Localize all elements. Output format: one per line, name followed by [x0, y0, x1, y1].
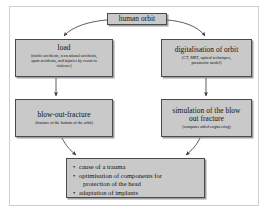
- node-load: load (traffic accidents, recreational ac…: [15, 39, 113, 77]
- list-item: • adaptation of implants: [73, 189, 199, 198]
- node-blowout-subtitle: (fracture of the bottom of the orbit): [32, 120, 96, 125]
- bullet-icon: •: [73, 163, 75, 172]
- node-human-orbit: human orbit: [107, 13, 167, 25]
- edge-root-to-digitalisation: [167, 20, 205, 36]
- node-load-subtitle: (traffic accidents, recreational acciden…: [28, 53, 100, 68]
- node-digitalisation-subtitle-line2: parametric model): [191, 60, 221, 65]
- results-item-0-line1: cause of a trauma: [79, 163, 125, 170]
- list-item: • optimisation of components for protect…: [73, 172, 199, 189]
- node-simulation-title-line2: out fracture: [189, 114, 224, 123]
- node-blowout-title: blow-out-fracture: [38, 111, 91, 119]
- results-item-1-line2: protection of the head: [79, 180, 199, 189]
- node-simulation-title: simulation of the blow out fracture: [173, 107, 241, 124]
- edge-simulation-to-results: [186, 138, 200, 155]
- edge-root-to-load: [64, 20, 107, 36]
- results-item-1-line1: optimisation of components for: [79, 172, 162, 179]
- node-digitalisation-subtitle: (CT, MRT, optical techniques, parametric…: [179, 55, 234, 65]
- node-load-title: load: [58, 44, 71, 52]
- node-blow-out-fracture: blow-out-fracture (fracture of the botto…: [15, 99, 113, 137]
- node-human-orbit-title: human orbit: [119, 15, 155, 23]
- node-simulation-subtitle: (computer aided engineering): [179, 124, 233, 129]
- edge-blowout-to-results: [62, 138, 76, 155]
- node-digitalisation-title: digitalisation of orbit: [175, 46, 239, 54]
- results-item-2-line1: adaptation of implants: [79, 189, 138, 196]
- node-load-subtitle-line3: violence): [56, 63, 71, 68]
- flowchart-figure: human orbit load (traffic accidents, rec…: [0, 0, 271, 214]
- results-list: • cause of a trauma • optimisation of co…: [73, 163, 199, 197]
- node-simulation-of-blow-out-fracture: simulation of the blow out fracture (com…: [161, 99, 252, 137]
- bullet-icon: •: [73, 189, 75, 198]
- node-digitalisation-of-orbit: digitalisation of orbit (CT, MRT, optica…: [161, 39, 252, 77]
- node-results: • cause of a trauma • optimisation of co…: [66, 158, 205, 198]
- list-item: • cause of a trauma: [73, 163, 199, 172]
- bullet-icon: •: [73, 172, 75, 181]
